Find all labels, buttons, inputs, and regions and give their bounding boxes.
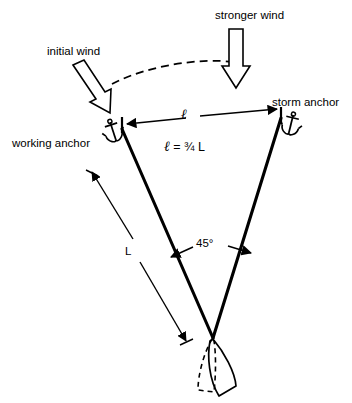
L-dimension-upper-tick (86, 170, 98, 176)
ell-dimension-left-arrow (127, 118, 186, 124)
L-dimension-upper-arrow (92, 172, 133, 239)
storm-anchor-rode (213, 118, 281, 338)
diagram-canvas (0, 0, 352, 403)
angle-label: 45° (196, 238, 213, 250)
L-dimension-lower-arrow (140, 262, 186, 341)
wind-shift-arc-icon (112, 61, 232, 84)
ell-formula-label: ℓ = ¾ L (164, 140, 205, 154)
stronger-wind-arrow-icon (222, 29, 250, 88)
L-dimension-lower-tick (180, 339, 193, 345)
anchoring-diagram: stronger wind initial wind storm anchor … (0, 0, 352, 403)
boat-hull-solid-icon (209, 339, 236, 396)
storm-anchor-label: storm anchor (272, 97, 339, 109)
initial-wind-label: initial wind (47, 46, 100, 58)
stronger-wind-label: stronger wind (215, 10, 284, 22)
rode-length-label: L (125, 246, 131, 258)
ell-formula-rhs: ¾ L (184, 140, 205, 154)
working-anchor-label: working anchor (12, 138, 90, 150)
ell-formula-equals: = (170, 140, 184, 154)
initial-wind-arrow-icon (73, 60, 111, 113)
working-anchor-rode (122, 129, 213, 338)
ell-dimension-right-arrow (200, 109, 277, 116)
ell-dimension-label: ℓ (181, 108, 187, 122)
